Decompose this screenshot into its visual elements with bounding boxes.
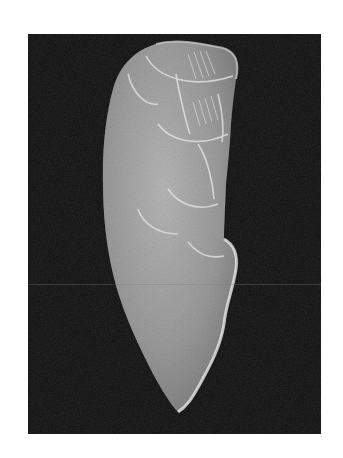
artifact-photograph [28,34,321,434]
scan-artifact-line [28,284,321,285]
artifact-illustration [28,34,321,434]
